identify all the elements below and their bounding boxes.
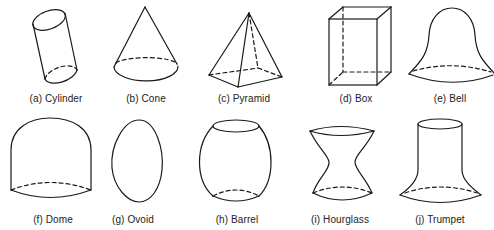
barrel-shape — [200, 120, 272, 201]
ovoid-caption: (g) Ovoid — [112, 214, 154, 225]
dome-shape — [11, 118, 91, 198]
bell-shape — [409, 8, 494, 82]
trumpet-shape — [400, 119, 481, 203]
barrel-caption: (h) Barrel — [216, 214, 259, 225]
cone-shape — [114, 7, 178, 81]
ovoid-shape — [112, 120, 162, 202]
dome-caption: (f) Dome — [33, 214, 73, 225]
box-caption: (d) Box — [340, 93, 373, 104]
pyramid-shape — [209, 13, 282, 87]
cylinder-caption: (a) Cylinder — [30, 93, 83, 104]
bell-caption: (e) Bell — [434, 93, 466, 104]
cone-caption: (b) Cone — [126, 93, 166, 104]
pyramid-caption: (c) Pyramid — [218, 93, 270, 104]
hourglass-shape — [310, 127, 374, 201]
box-shape — [329, 7, 391, 85]
cylinder-shape — [30, 6, 77, 83]
hourglass-caption: (i) Hourglass — [311, 214, 369, 225]
trumpet-caption: (j) Trumpet — [415, 214, 464, 225]
geometric-shapes-figure: (a) Cylinder (b) Cone (c) Pyramid (d) Bo… — [0, 0, 494, 230]
shapes-canvas — [0, 0, 494, 230]
